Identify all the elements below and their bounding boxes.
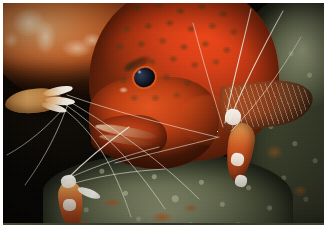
photo-grain bbox=[3, 3, 324, 225]
photograph-frame bbox=[0, 0, 327, 228]
photograph-canvas bbox=[3, 3, 324, 225]
photo-bottom-edge bbox=[3, 223, 324, 225]
